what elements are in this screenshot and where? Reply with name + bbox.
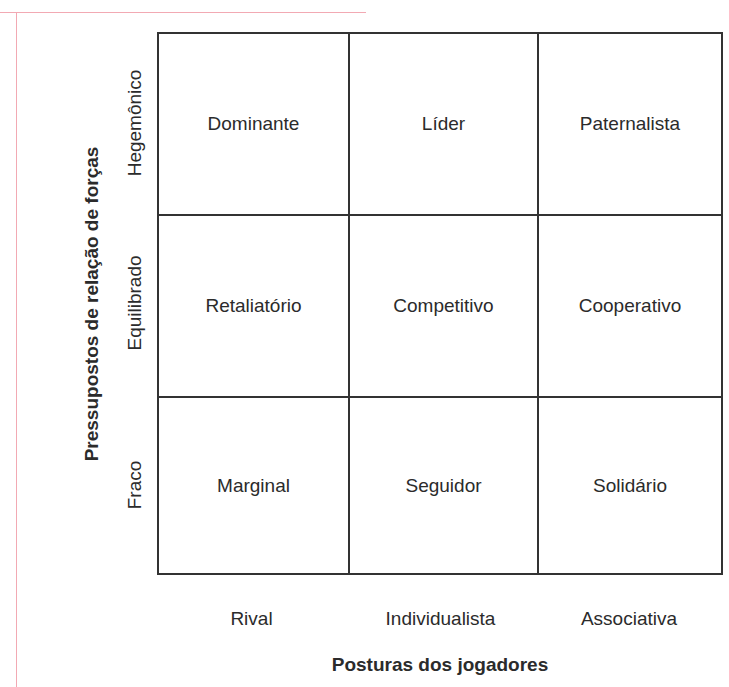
cell-competitivo: Competitivo — [348, 214, 537, 396]
matrix-grid: Dominante Líder Paternalista Retaliatóri… — [157, 32, 723, 575]
col-label-rival: Rival — [157, 606, 346, 632]
cell-dominante: Dominante — [159, 34, 348, 214]
row-label-fraco: Fraco — [120, 394, 150, 575]
col-label-individualista: Individualista — [346, 606, 535, 632]
cell-paternalista: Paternalista — [537, 34, 721, 214]
cell-lider: Líder — [348, 34, 537, 214]
y-axis-title-text: Pressupostos de relação de forças — [81, 146, 103, 461]
cell-solidario: Solidário — [537, 396, 721, 573]
row-label-text: Equilibrado — [124, 255, 146, 350]
cell-retaliatorio: Retaliatório — [159, 214, 348, 396]
col-label-associativa: Associativa — [535, 606, 723, 632]
row-label-hegemonico: Hegemônico — [120, 32, 150, 214]
cell-marginal: Marginal — [159, 396, 348, 573]
page-rule-horizontal — [0, 12, 366, 13]
page-rule-vertical — [16, 12, 17, 687]
x-axis-title: Posturas dos jogadores — [157, 650, 723, 680]
cell-cooperativo: Cooperativo — [537, 214, 721, 396]
cell-seguidor: Seguidor — [348, 396, 537, 573]
row-label-text: Fraco — [124, 460, 146, 509]
row-label-text: Hegemônico — [124, 70, 146, 177]
row-label-equilibrado: Equilibrado — [120, 212, 150, 394]
y-axis-title: Pressupostos de relação de forças — [72, 32, 112, 575]
